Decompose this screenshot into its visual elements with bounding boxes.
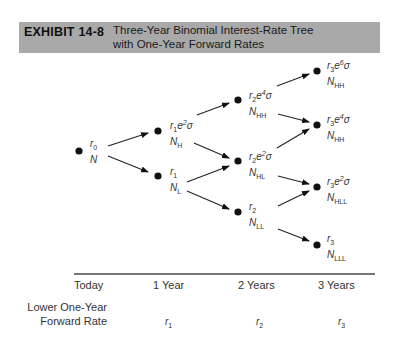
node-y1down-label: r1 NL — [170, 166, 181, 198]
axis-label-3years: 3 Years — [318, 279, 355, 291]
edge-today-y1up — [108, 133, 148, 146]
axis-label-1year: 1 Year — [153, 279, 184, 291]
forward-rate-label: Lower One-Year Forward Rate — [27, 300, 107, 328]
axis-label-2years: 2 Years — [238, 279, 275, 291]
node-today-label: r0 N — [90, 138, 97, 166]
edge-y2down-y3d — [278, 229, 309, 241]
node-y3d-dot — [313, 241, 320, 248]
forward-rate-1year: r1 — [165, 316, 172, 329]
node-y3a-dot — [313, 67, 320, 74]
edge-y2mid-y3c — [278, 176, 309, 184]
node-y2mid-dot — [234, 157, 241, 164]
forward-rate-2years: r2 — [256, 316, 263, 329]
node-y3d-label: r3 NLLL — [327, 233, 346, 265]
node-y1up-label: r1e2σ NH — [170, 117, 193, 152]
edge-y2up-y3b — [278, 114, 309, 122]
edge-y2up-y3a — [277, 74, 309, 86]
node-y1down-dot — [154, 172, 161, 179]
node-y2up-label: r2e4σ NHH — [249, 87, 272, 122]
edge-y2mid-y3b — [277, 129, 309, 148]
node-y2mid-label: r2e2σ NHL — [249, 148, 272, 183]
node-y2down-dot — [234, 208, 241, 215]
node-y3b-label: r3e4σ NHH — [327, 111, 350, 146]
forward-rate-3years: r3 — [338, 316, 345, 329]
node-y3c-dot — [313, 183, 320, 190]
node-y1up-dot — [154, 127, 161, 134]
node-today-dot — [75, 147, 82, 154]
edge-y2down-y3c — [278, 191, 309, 206]
edge-y1up-y2up — [197, 103, 229, 115]
node-y2up-dot — [234, 96, 241, 103]
edge-y1down-y2down — [187, 191, 229, 209]
edge-y1down-y2mid — [187, 166, 229, 182]
node-y2down-label: r2 NLL — [249, 201, 264, 233]
node-y3b-dot — [313, 121, 320, 128]
node-y3c-label: r3e2σ NHLL — [327, 173, 350, 208]
axis-rule — [74, 273, 375, 275]
node-y3a-label: r3e6σ NHH — [327, 57, 350, 92]
axis-label-today: Today — [74, 279, 103, 291]
edge-y1up-y2mid — [194, 143, 229, 158]
edge-today-y1down — [108, 156, 148, 172]
